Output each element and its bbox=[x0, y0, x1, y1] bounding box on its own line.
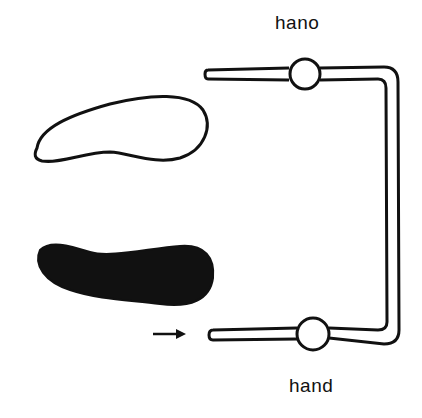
top-hand-label: hano bbox=[275, 12, 319, 34]
right-arrow-icon bbox=[153, 329, 186, 339]
filled-blob bbox=[38, 244, 213, 305]
outline-blob bbox=[35, 96, 207, 161]
top-valve-circle bbox=[290, 59, 320, 89]
bottom-hand-label: hand bbox=[289, 375, 333, 397]
bottom-handle bbox=[209, 318, 329, 350]
diagram-canvas bbox=[0, 0, 422, 418]
top-handle bbox=[205, 59, 399, 344]
bottom-valve-circle bbox=[297, 318, 329, 350]
